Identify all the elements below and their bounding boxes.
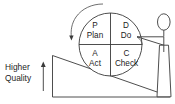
quality-label-line2: Quality	[5, 73, 32, 83]
quadrant-letter-plan: P	[92, 21, 98, 30]
quadrant-letter-act: A	[92, 49, 98, 58]
pdca-wheel: P Plan D Do A Act C Check	[79, 13, 142, 76]
rotation-arrow-head	[69, 36, 73, 41]
pdca-diagram: P Plan D Do A Act C Check	[0, 0, 175, 104]
quality-arrow-head	[41, 62, 46, 68]
person-body-legs	[157, 45, 171, 97]
quadrant-word-act: Act	[89, 59, 102, 68]
higher-quality-arrow	[41, 62, 46, 92]
quadrant-letter-do: D	[123, 21, 129, 30]
quality-label-line1: Higher	[5, 62, 30, 72]
quadrant-word-do: Do	[121, 31, 132, 40]
pdca-diagram-canvas: P Plan D Do A Act C Check	[0, 0, 175, 104]
quadrant-letter-check: C	[124, 49, 130, 58]
person-pushing-wheel	[137, 14, 171, 97]
quadrant-word-check: Check	[115, 59, 139, 68]
person-head-icon	[158, 14, 171, 30]
higher-quality-label: Higher Quality	[5, 62, 32, 83]
quadrant-word-plan: Plan	[87, 31, 104, 40]
